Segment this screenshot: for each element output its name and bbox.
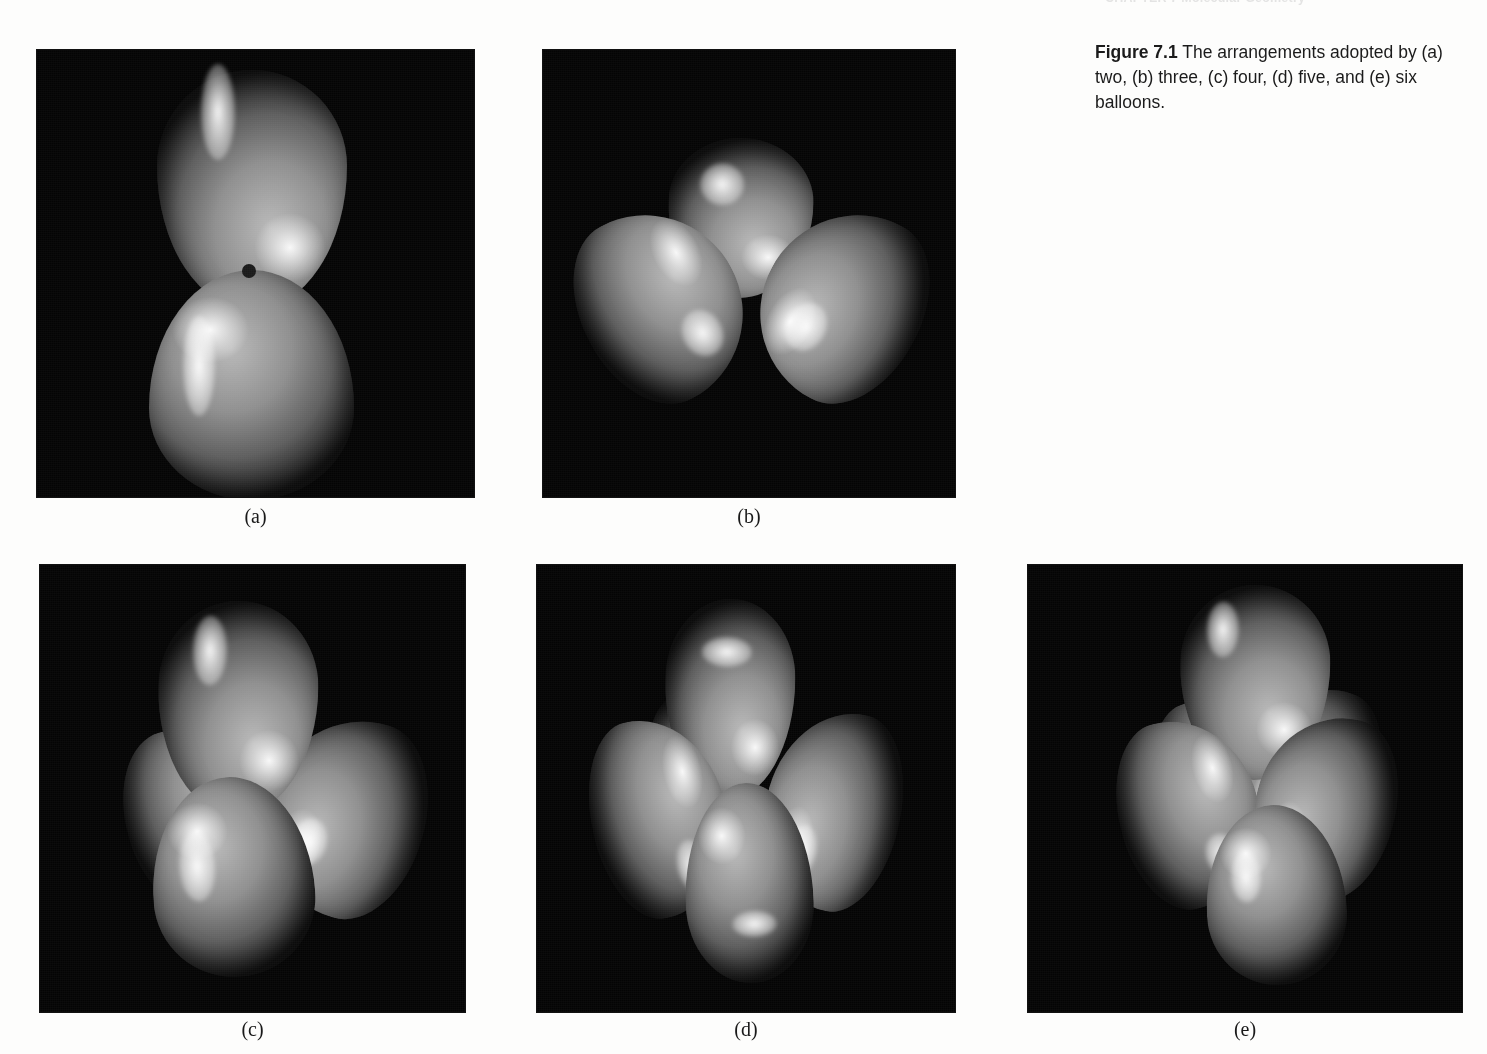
balloon-highlight (777, 295, 836, 358)
textbook-page: CHAPTER 7 Molecular Geometry (a) (0, 0, 1487, 1054)
panel-label-e: (e) (1028, 1018, 1462, 1041)
balloon-highlight (674, 302, 732, 363)
balloon-highlight (192, 615, 227, 686)
balloon-highlight (183, 316, 215, 416)
running-head: CHAPTER 7 Molecular Geometry (1105, 0, 1465, 5)
panel-d-stage (537, 565, 955, 1012)
figure-panel-c (40, 565, 465, 1012)
panel-label-c: (c) (40, 1018, 465, 1041)
balloon-highlight (699, 163, 744, 207)
figure-number: Figure 7.1 (1095, 42, 1178, 62)
balloon-a-2 (149, 270, 354, 497)
balloon-knot (242, 264, 256, 278)
figure-panel-e (1028, 565, 1462, 1012)
panel-label-d: (d) (537, 1018, 955, 1041)
figure-caption: Figure 7.1 The arrangements adopted by (… (1095, 40, 1467, 115)
figure-panel-d (537, 565, 955, 1012)
balloon-highlight (732, 910, 777, 938)
panel-e-stage (1028, 565, 1462, 1012)
panel-a-stage (37, 50, 474, 497)
balloon-highlight (201, 64, 235, 160)
panel-label-b: (b) (543, 505, 955, 528)
panel-b-stage (543, 50, 955, 497)
figure-panel-b (543, 50, 955, 497)
panel-c-stage (40, 565, 465, 1012)
figure-panel-a (37, 50, 474, 497)
balloon-highlight (702, 637, 753, 668)
balloon-highlight (1206, 601, 1239, 658)
panel-label-a: (a) (37, 505, 474, 528)
balloon-highlight (177, 830, 218, 902)
balloon-highlight (1230, 852, 1263, 904)
